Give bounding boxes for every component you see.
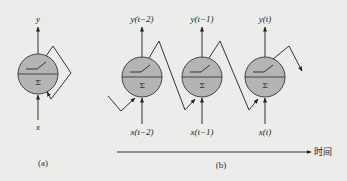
neuron-t-minus-1: y(t−1) Σ x(t−1)	[182, 14, 222, 137]
caption-b: (b)	[216, 160, 227, 170]
panel-a: y x Σ (a)	[18, 14, 71, 168]
caption-a: (a)	[38, 158, 48, 168]
neuron: Σ	[18, 54, 58, 94]
neuron-t-minus-2: y(t−2) Σ x(t−2)	[122, 14, 162, 137]
input-label-x-t: x(t)	[258, 127, 272, 137]
input-label-x-t-1: x(t−1)	[189, 127, 213, 137]
output-label-y-t-2: y(t−2)	[129, 14, 153, 24]
output-label-y-t: y(t)	[258, 14, 272, 24]
time-axis-label: 时间	[314, 146, 332, 157]
sum-symbol: Σ	[199, 81, 205, 90]
output-label-y: y	[35, 14, 40, 24]
sum-symbol: Σ	[262, 81, 268, 90]
input-label-x-t-2: x(t−2)	[129, 127, 153, 137]
input-label-x: x	[35, 122, 40, 132]
neuron-t: y(t) Σ x(t)	[245, 14, 285, 137]
sum-symbol: Σ	[139, 81, 145, 90]
rnn-unrolled-diagram: y x Σ (a) y(t−2) Σ x(t−2) y(t−1)	[0, 0, 347, 181]
sum-symbol: Σ	[35, 78, 41, 87]
panel-b: y(t−2) Σ x(t−2) y(t−1) Σ x(t−1) y(t)	[108, 14, 332, 170]
incoming-state-arrow	[108, 96, 135, 111]
output-label-y-t-1: y(t−1)	[189, 14, 213, 24]
